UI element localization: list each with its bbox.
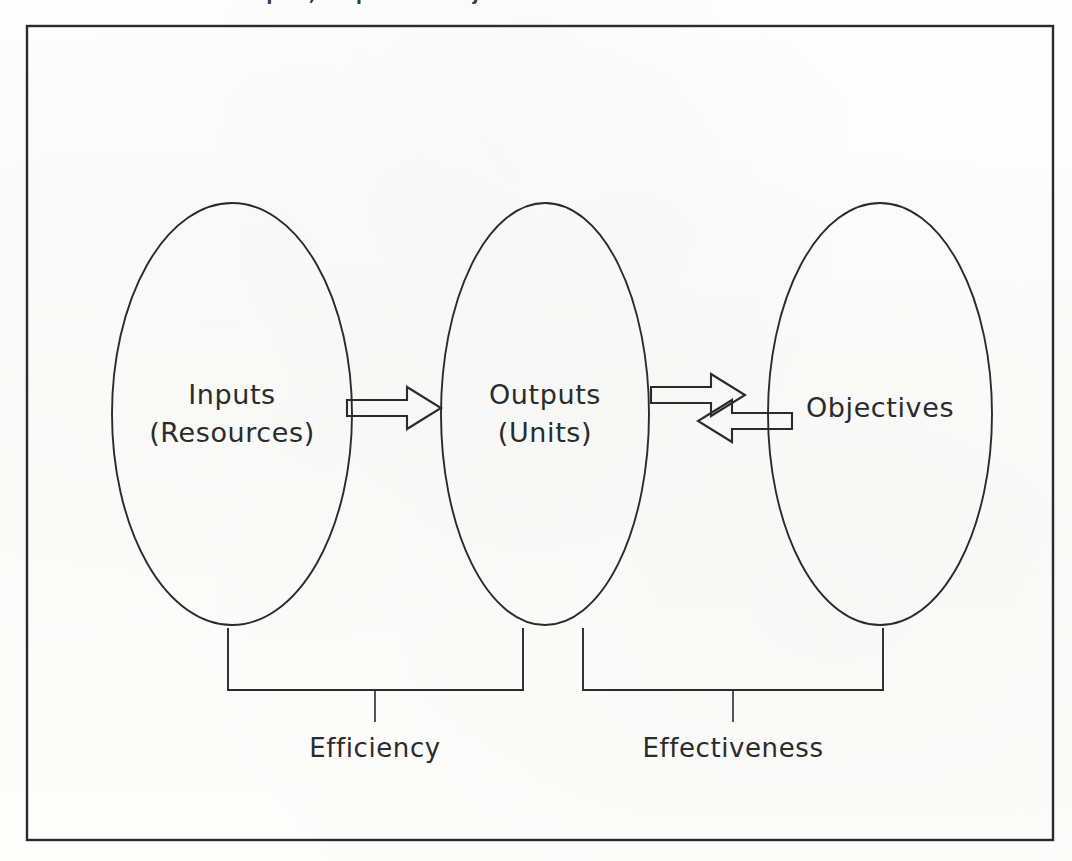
node-label-outputs-line1: Outputs [489,379,601,410]
arrow-outputs-to-objectives [651,374,745,416]
figure-page: Inputs, Outputs and Objectives Inputs (R… [0,0,1072,861]
arrow-objectives-to-outputs [698,400,792,442]
node-label-inputs-line1: Inputs [188,379,276,410]
node-label-inputs: Inputs (Resources) [149,376,315,453]
bracket-label-efficiency: Efficiency [309,733,441,763]
node-label-objectives: Objectives [806,389,954,427]
node-label-objectives-line1: Objectives [806,392,954,423]
arrow-inputs-to-outputs [347,387,441,429]
node-label-outputs: Outputs (Units) [489,376,601,453]
bracket-efficiency [228,628,523,690]
node-label-outputs-line2: (Units) [489,414,601,452]
bracket-effectiveness [583,628,883,690]
bracket-label-effectiveness: Effectiveness [642,733,823,763]
node-label-inputs-line2: (Resources) [149,414,315,452]
